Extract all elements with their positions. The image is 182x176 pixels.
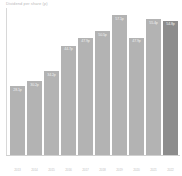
bar-value-label: 50.5p xyxy=(95,33,111,37)
x-axis-line xyxy=(6,155,180,156)
bar-value-label: 57.1p xyxy=(112,17,128,21)
bar-slot: 47.9p xyxy=(129,8,145,155)
x-axis-tick-label: 2019 xyxy=(112,168,128,172)
bar-value-label: 55.4p xyxy=(146,21,162,25)
bar[interactable]: 47.9p xyxy=(129,38,145,155)
bar-slot: 54.8p xyxy=(163,8,179,155)
x-axis-tick-label: 2020 xyxy=(129,168,145,172)
bar-slot: 30.2p xyxy=(27,8,43,155)
bar-slot: 28.1p xyxy=(10,8,26,155)
bar[interactable]: 47.9p xyxy=(78,38,94,155)
bar-value-label: 47.9p xyxy=(129,39,145,43)
bars-container: 28.1p30.2p34.2p44.7p47.9p50.5p57.1p47.9p… xyxy=(9,8,179,155)
bar[interactable]: 57.1p xyxy=(112,15,128,155)
bar-value-label: 47.9p xyxy=(78,39,94,43)
bar[interactable]: 44.7p xyxy=(61,46,77,156)
bar-slot: 47.9p xyxy=(78,8,94,155)
x-axis-tick-label: 2018 xyxy=(95,168,111,172)
bar-slot: 57.1p xyxy=(112,8,128,155)
bar-slot: 44.7p xyxy=(61,8,77,155)
bar-slot: 34.2p xyxy=(44,8,60,155)
bar[interactable]: 30.2p xyxy=(27,81,43,155)
chart-title: Dividend per share (p) xyxy=(6,1,48,6)
bar-chart: Dividend per share (p) 28.1p30.2p34.2p44… xyxy=(0,0,182,176)
x-axis-tick-label: 2014 xyxy=(27,168,43,172)
bar[interactable]: 34.2p xyxy=(44,71,60,155)
bar-value-label: 28.1p xyxy=(10,88,26,92)
bar-value-label: 34.2p xyxy=(44,73,60,77)
bar[interactable]: 55.4p xyxy=(146,19,162,155)
bar-slot: 55.4p xyxy=(146,8,162,155)
bar-value-label: 44.7p xyxy=(61,47,77,51)
x-axis-tick-label: 2013 xyxy=(10,168,26,172)
bar-value-label: 30.2p xyxy=(27,83,43,87)
bar-slot: 50.5p xyxy=(95,8,111,155)
y-axis-line xyxy=(6,8,7,156)
bar[interactable]: 54.8p xyxy=(163,21,179,155)
plot-area: 28.1p30.2p34.2p44.7p47.9p50.5p57.1p47.9p… xyxy=(6,8,180,156)
bar[interactable]: 28.1p xyxy=(10,86,26,155)
bar-value-label: 54.8p xyxy=(163,22,179,26)
x-axis-tick-label: 2016 xyxy=(61,168,77,172)
x-axis-tick-label: 2015 xyxy=(44,168,60,172)
x-axis-labels: 2013201420152016201720182019202020212022 xyxy=(9,168,179,172)
x-axis-tick-label: 2021 xyxy=(146,168,162,172)
x-axis-tick-label: 2017 xyxy=(78,168,94,172)
bar[interactable]: 50.5p xyxy=(95,31,111,155)
x-axis-tick-label: 2022 xyxy=(163,168,179,172)
